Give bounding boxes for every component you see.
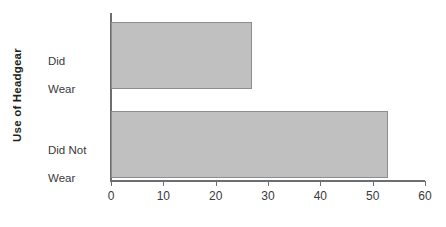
category-label-line: Wear: [48, 82, 106, 96]
x-axis-tick: [111, 181, 112, 186]
bar-did-not-wear: [111, 111, 388, 178]
x-axis-tick: [216, 181, 217, 186]
plot-area: 0102030405060: [111, 13, 425, 180]
x-axis-tick-label: 40: [300, 189, 340, 203]
category-label-did-wear: Did Wear: [48, 40, 106, 110]
y-axis-title-text: Use of Headgear: [11, 48, 23, 142]
bar-did-wear: [111, 22, 252, 89]
x-axis-tick-label: 0: [91, 189, 131, 203]
x-axis-tick-label: 50: [353, 189, 393, 203]
category-label-line: Wear: [48, 171, 106, 185]
y-axis-title: Use of Headgear: [0, 0, 34, 190]
x-axis-tick-label: 60: [405, 189, 445, 203]
x-axis-tick: [268, 181, 269, 186]
x-axis-tick-label: 10: [143, 189, 183, 203]
bar-chart-figure: Use of Headgear Did Wear Did Not Wear 01…: [0, 0, 446, 227]
x-axis-tick-label: 20: [196, 189, 236, 203]
x-axis-tick-label: 30: [248, 189, 288, 203]
category-label-line: Did Not: [48, 143, 106, 157]
x-axis-tick: [163, 181, 164, 186]
x-axis-tick: [373, 181, 374, 186]
x-axis-tick: [320, 181, 321, 186]
category-label-line: Did: [48, 54, 106, 68]
x-axis-tick: [425, 181, 426, 186]
